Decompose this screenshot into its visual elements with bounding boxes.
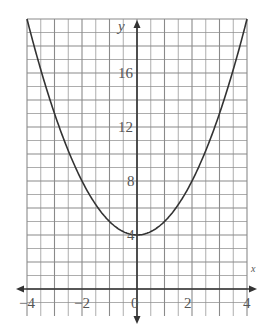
x-tick-label: −4 bbox=[19, 295, 35, 311]
x-tick-label: 4 bbox=[243, 295, 251, 311]
y-axis-down-arrow-icon bbox=[134, 316, 141, 324]
axes bbox=[16, 20, 257, 324]
y-tick-label: 8 bbox=[127, 173, 135, 189]
y-tick-label: 16 bbox=[118, 65, 134, 81]
x-axis-right-arrow-icon bbox=[249, 286, 257, 293]
x-tick-label: −2 bbox=[74, 295, 90, 311]
x-tick-label: 0 bbox=[131, 295, 139, 311]
y-tick-label: 12 bbox=[118, 119, 133, 135]
y-axis-up-arrow-icon bbox=[134, 20, 141, 28]
tick-labels: −4−2024481216 bbox=[19, 65, 251, 311]
x-tick-label: 2 bbox=[184, 295, 192, 311]
y-axis-label: y bbox=[116, 18, 125, 34]
x-axis-left-arrow-icon bbox=[16, 286, 24, 293]
parabola-chart: −4−2024481216 y x bbox=[0, 0, 262, 329]
y-tick-label: 4 bbox=[127, 227, 135, 243]
x-axis-label: x bbox=[250, 263, 256, 274]
